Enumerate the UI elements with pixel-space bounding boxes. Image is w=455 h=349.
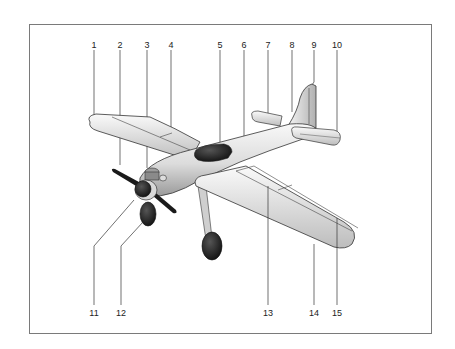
callout-11: 11 [89, 308, 98, 318]
callout-6: 6 [241, 40, 246, 50]
callout-5: 5 [217, 40, 222, 50]
landing-gear-strut [198, 186, 212, 240]
callout-10: 10 [332, 40, 342, 50]
callout-14: 14 [309, 308, 319, 318]
stabilizer-left [252, 111, 282, 126]
callout-15: 15 [332, 308, 342, 318]
callout-7: 7 [265, 40, 270, 50]
callout-2: 2 [117, 40, 122, 50]
propeller-spinner [135, 181, 151, 197]
callout-8: 8 [289, 40, 294, 50]
airplane-illustration [0, 0, 455, 349]
callout-12: 12 [116, 308, 126, 318]
callout-1: 1 [91, 40, 96, 50]
callout-9: 9 [311, 40, 316, 50]
callout-4: 4 [168, 40, 173, 50]
landing-gear-wheel [202, 232, 222, 260]
stabilizer-right [292, 127, 341, 145]
callout-3: 3 [144, 40, 149, 50]
callout-13: 13 [263, 308, 273, 318]
